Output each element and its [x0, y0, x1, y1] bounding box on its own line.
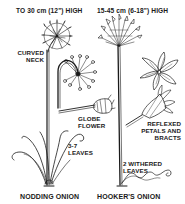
nodding-onion-flower-head	[42, 20, 72, 52]
leaves-count-label: 3-7 LEAVES	[68, 142, 93, 156]
leaves-count-label-line1: 3-7	[68, 142, 93, 149]
globe-flower-label-line2: FLOWER	[78, 122, 105, 129]
reflexed-petals-label: REFLEXED PETALS AND BRACTS	[135, 120, 181, 141]
reflexed-petals-label-line1: REFLEXED	[135, 120, 181, 127]
nodding-onion-height-label: TO 30 cm (12") HIGH	[16, 7, 82, 14]
curved-neck-label-line1: CURVED	[14, 49, 44, 56]
withered-leaves-label: 2 WITHERED LEAVES	[123, 160, 162, 174]
globe-flower-label: GLOBE FLOWER	[78, 115, 105, 129]
reflexed-petals-label-line3: BRACTS	[135, 134, 181, 141]
curved-neck-detail	[58, 55, 97, 109]
onion-comparison-diagram: TO 30 cm (12") HIGH 15-45 cm (6-18") HIG…	[0, 0, 185, 204]
leaves-count-label-line2: LEAVES	[68, 149, 93, 156]
withered-leaves-label-line2: LEAVES	[123, 167, 162, 174]
hookers-onion-height-label: 15-45 cm (6-18") HIGH	[97, 7, 168, 14]
star-flower-detail	[140, 52, 178, 90]
hookers-onion-name: HOOKER'S ONION	[97, 193, 160, 200]
curved-neck-label-line2: NECK	[14, 56, 44, 63]
globe-flower-label-line1: GLOBE	[78, 115, 105, 122]
nodding-onion-plant	[12, 20, 115, 186]
reflexed-petals-label-line2: PETALS AND	[135, 127, 181, 134]
globe-flower-detail	[59, 95, 115, 113]
withered-leaves-label-line1: 2 WITHERED	[123, 160, 162, 167]
nodding-onion-name: NODDING ONION	[20, 193, 79, 200]
curved-neck-label: CURVED NECK	[14, 49, 44, 63]
nodding-onion-leaves	[12, 131, 84, 186]
hookers-onion-flower-head	[98, 14, 142, 46]
